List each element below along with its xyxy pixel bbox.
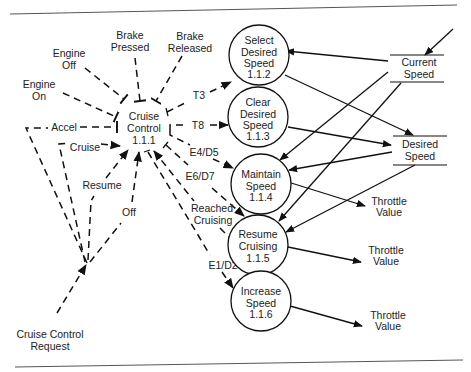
bottom-rule	[15, 360, 463, 367]
flow-desired-to-maintain	[289, 152, 392, 170]
flow-maintain-to-throttle	[288, 182, 365, 206]
label-engine-on-2: On	[32, 90, 46, 102]
process-clear-desired-speed[interactable]: Clear Desired Speed 1.1.3	[228, 87, 288, 147]
label-brake-pressed-1: Brake	[116, 29, 144, 41]
control-flow-cruise-control-request: Cruise Control Request	[16, 265, 86, 352]
control-flow-brake-pressed: Brake Pressed	[111, 29, 150, 101]
label-request-2: Request	[30, 340, 69, 352]
control-flow-t3: T3	[166, 82, 231, 116]
label-t8: T8	[192, 119, 204, 131]
flow-resume-to-throttle	[288, 247, 361, 262]
label-engine-off-1: Engine	[53, 47, 86, 59]
control-flow-e4-d5: E4/D5	[170, 131, 233, 168]
store-desired-speed[interactable]: Desired Speed	[393, 136, 447, 165]
output-throttle-value-2: Throttle Value	[368, 244, 404, 267]
flow-select-to-desired	[285, 75, 413, 135]
process-increase-speed[interactable]: Increase Speed 1.1.6	[231, 271, 291, 331]
label-e6-d7: E6/D7	[185, 170, 214, 182]
cruise-control-line-1: Cruise	[129, 110, 160, 122]
top-rule	[10, 5, 457, 14]
process-label: Clear	[245, 96, 271, 108]
process-label: Cruising	[239, 240, 278, 252]
process-resume-cruising[interactable]: Resume Cruising 1.1.5	[228, 215, 288, 275]
process-label: Increase	[241, 285, 281, 297]
store-label: Desired	[402, 138, 438, 150]
label-brake-released-2: Released	[168, 42, 213, 54]
label-engine-off-2: Off	[62, 59, 76, 71]
throttle-label: Value	[373, 255, 399, 267]
process-id: 1.1.4	[249, 191, 273, 203]
control-flow-engine-off: Engine Off	[53, 47, 124, 99]
store-label: Speed	[405, 150, 436, 162]
label-resume: Resume	[82, 179, 121, 191]
label-request-1: Cruise Control	[16, 328, 83, 340]
control-flow-off: Off	[90, 152, 139, 262]
label-off: Off	[122, 206, 136, 218]
control-flow-t8: T8	[170, 119, 228, 131]
label-accel: Accel	[51, 121, 77, 133]
throttle-label: Value	[376, 206, 402, 218]
flow-clear-to-desired	[288, 127, 391, 145]
process-select-desired-speed[interactable]: Select Desired Speed 1.1.2	[229, 25, 289, 85]
process-id: 1.1.2	[247, 68, 271, 80]
control-flow-reached-cruising: Reached Cruising	[154, 151, 233, 238]
control-process-cruise-control[interactable]: Cruise Control 1.1.1	[127, 110, 161, 146]
label-reached-cruising-1: Reached	[191, 202, 233, 214]
process-maintain-speed[interactable]: Maintain Speed 1.1.4	[231, 154, 291, 214]
cruise-control-flow-diagram: Engine On Engine Off Brake Pressed Brake…	[0, 0, 471, 372]
control-flow-resume: Resume	[82, 150, 128, 260]
store-label: Current	[401, 56, 436, 68]
label-brake-pressed-2: Pressed	[111, 41, 150, 53]
label-reached-cruising-2: Cruising	[194, 214, 233, 226]
label-brake-released-1: Brake	[176, 30, 204, 42]
process-label: Resume	[238, 228, 277, 240]
process-id: 1.1.5	[246, 252, 270, 264]
output-throttle-value-3: Throttle Value	[370, 309, 406, 332]
flow-increase-to-throttle	[290, 306, 362, 326]
throttle-label: Value	[375, 320, 401, 332]
control-flow-engine-on: Engine On	[23, 78, 116, 117]
label-t3: T3	[193, 89, 205, 101]
flow-in-to-current	[425, 29, 453, 55]
store-label: Speed	[404, 68, 435, 80]
process-label: Select	[244, 34, 273, 46]
process-id: 1.1.6	[249, 308, 273, 320]
label-cruise: Cruise	[70, 141, 101, 153]
label-engine-on-1: Engine	[23, 78, 56, 90]
label-e4-d5: E4/D5	[189, 146, 218, 158]
store-current-speed[interactable]: Current Speed	[390, 55, 444, 82]
process-id: 1.1.3	[246, 130, 270, 142]
process-label: Maintain	[241, 168, 281, 180]
cruise-control-line-2: Control	[127, 122, 161, 134]
cruise-control-line-3: 1.1.1	[132, 134, 156, 146]
flow-current-to-select	[286, 51, 388, 61]
output-throttle-value-1: Throttle Value	[371, 195, 407, 218]
